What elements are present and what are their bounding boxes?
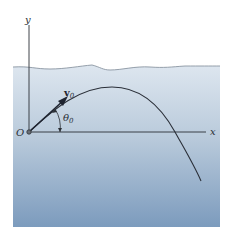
y-axis-label: y <box>24 14 31 25</box>
fluid-region <box>13 65 220 227</box>
diagram-canvas: y x v0 θ0 O <box>0 0 233 242</box>
origin-label: O <box>16 127 24 138</box>
x-axis-label: x <box>210 126 216 137</box>
origin-point <box>27 130 31 134</box>
projectile-diagram: y x v0 θ0 O <box>0 0 233 242</box>
